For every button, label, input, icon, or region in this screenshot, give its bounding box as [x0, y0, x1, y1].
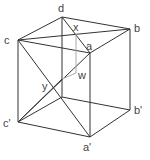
- label-aprime: a': [83, 141, 91, 153]
- label-d: d: [58, 2, 64, 14]
- edge-aprime-bprime: [90, 110, 130, 137]
- label-b: b: [134, 22, 140, 34]
- line-w-hidden: [62, 73, 76, 79]
- hidden-lines: [62, 34, 76, 79]
- label-x: x: [73, 21, 79, 33]
- edge-bprime-dprime: [62, 97, 130, 110]
- label-cprime: c': [3, 117, 11, 129]
- labels: d b c a x w y c' b' a': [3, 2, 142, 153]
- edge-cprime-aprime: [18, 122, 90, 137]
- edge-a-c: [18, 40, 90, 53]
- diagonal-c-aprime: [18, 40, 90, 137]
- cube-diagram: d b c a x w y c' b' a': [0, 0, 150, 160]
- label-w: w: [77, 69, 86, 81]
- label-a: a: [86, 40, 93, 52]
- cube-edges: [18, 17, 130, 137]
- label-bprime: b': [134, 104, 142, 116]
- label-c: c: [4, 34, 10, 46]
- label-y: y: [42, 80, 48, 92]
